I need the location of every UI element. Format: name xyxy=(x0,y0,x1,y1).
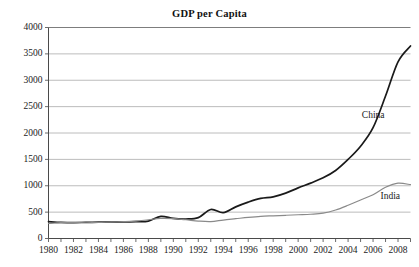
y-tick-label: 0 xyxy=(38,233,43,243)
y-tick-label: 2500 xyxy=(24,101,43,111)
y-tick-label: 1500 xyxy=(24,154,43,164)
y-tick-label: 3500 xyxy=(24,48,43,58)
data-series xyxy=(49,46,411,224)
series-label-india: India xyxy=(381,191,401,201)
series-label-china: China xyxy=(362,110,385,120)
x-tick-label: 2008 xyxy=(378,245,418,255)
y-tick-label: 3000 xyxy=(24,75,43,85)
y-tick-label: 2000 xyxy=(24,128,43,138)
series-line-china xyxy=(49,46,411,223)
x-axis-ticks xyxy=(49,239,411,243)
plot-area xyxy=(0,0,419,267)
gridlines xyxy=(45,28,411,239)
series-line-india xyxy=(49,183,411,223)
y-tick-label: 500 xyxy=(28,207,42,217)
y-tick-label: 1000 xyxy=(24,180,43,190)
y-tick-label: 4000 xyxy=(24,22,43,32)
gdp-per-capita-chart: GDP per Capita 0500100015002000250030003… xyxy=(0,0,419,267)
